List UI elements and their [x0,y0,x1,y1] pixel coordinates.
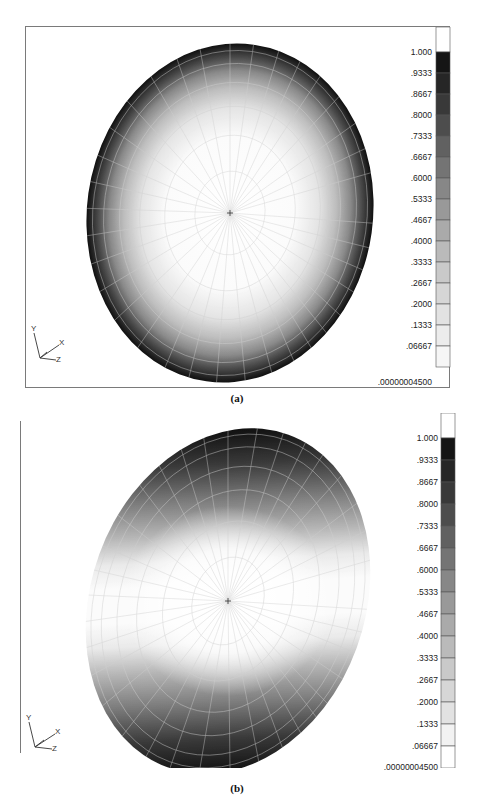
legend-label: 1.000 [411,47,432,57]
triad-label-x: X [55,727,61,736]
legend-label: .6000 [411,173,432,183]
legend-label: .3333 [411,257,432,267]
legend-label: .4000 [411,236,432,246]
legend-label: .8000 [411,110,432,120]
legend-label: .00000004500 [384,762,438,772]
triad-label-y: Y [26,713,32,722]
triad-label-z: Z [52,744,57,753]
legend-label: .6000 [417,565,438,575]
legend-labels-b: 1.000 .9333 .8667 .8000 .7333 .6667 .600… [320,413,438,768]
legend-label: .7333 [417,521,438,531]
legend-label: .1333 [417,719,438,729]
legend-label: .9333 [411,68,432,78]
legend-label: .2667 [417,675,438,685]
caption-a: (a) [207,392,267,404]
legend-label: .8667 [411,89,432,99]
legend-label: .6667 [417,543,438,553]
legend-label: .4667 [411,215,432,225]
legend-label: .5333 [411,194,432,204]
legend-label: .2000 [417,697,438,707]
panel-b: Y X Z 1.000 .9333 .8667 .8000 .7333 [20,413,460,768]
triad-label-x: X [59,338,65,347]
caption-b: (b) [207,782,267,794]
triad-label-z: Z [56,355,61,364]
panel-a: Y X Z 1.000 .9333 .8667 .8000 .7333 [25,26,450,388]
legend-label: .9333 [417,455,438,465]
legend-label: .06667 [406,341,432,351]
legend-colorbar-b [441,413,455,768]
legend-label: 1.000 [417,433,438,443]
legend-label: .4667 [417,609,438,619]
legend-label: .00000004500 [378,377,432,387]
legend-colorbar-a [436,27,450,367]
legend-label: .8000 [417,499,438,509]
legend-label: .1333 [411,320,432,330]
legend-label: .7333 [411,131,432,141]
legend-label: .8667 [417,477,438,487]
legend-label: .3333 [417,653,438,663]
legend-label: .2000 [411,299,432,309]
legend-label: .06667 [412,741,438,751]
legend-labels-a: 1.000 .9333 .8667 .8000 .7333 .6667 .600… [352,27,432,389]
legend-label: .4000 [417,631,438,641]
legend-label: .5333 [417,587,438,597]
legend-label: .2667 [411,278,432,288]
triad-label-y: Y [31,324,37,333]
legend-label: .6667 [411,152,432,162]
